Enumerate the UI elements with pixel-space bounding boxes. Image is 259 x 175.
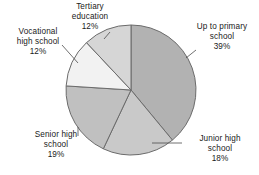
pie-label-senior-high-school-line1: Senior high [18,130,94,140]
pie-label-vocational-high-school: Vocational high school 12% [0,27,76,57]
pie-chart-figure: Tertiary education 12% Vocational high s… [0,0,259,175]
pie-label-tertiary-education-line1: Tertiary [52,2,128,12]
pie-label-up-to-primary-school-line1: Up to primary [186,22,258,32]
pie-label-senior-high-school-percent: 19% [18,150,94,160]
pie-label-vocational-high-school-line2: high school [0,37,76,47]
pie-label-up-to-primary-school-percent: 39% [186,42,258,52]
pie-label-senior-high-school: Senior high school 19% [18,130,94,160]
pie-label-junior-high-school-line1: Junior high [182,134,258,144]
pie-label-junior-high-school-line2: school [182,144,258,154]
pie-label-vocational-high-school-percent: 12% [0,47,76,57]
pie-label-senior-high-school-line2: school [18,140,94,150]
pie-label-junior-high-school: Junior high school 18% [182,134,258,164]
pie-label-junior-high-school-percent: 18% [182,154,258,164]
pie-label-up-to-primary-school: Up to primary school 39% [186,22,258,52]
pie-label-up-to-primary-school-line2: school [186,32,258,42]
pie-label-tertiary-education-line2: education [52,12,128,22]
pie-label-vocational-high-school-line1: Vocational [0,27,76,37]
